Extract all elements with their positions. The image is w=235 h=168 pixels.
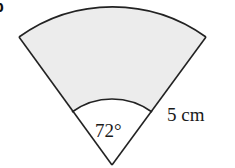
shaded-region	[19, 7, 206, 112]
width-label: 5 cm	[167, 104, 205, 125]
diagram-canvas: 72° 5 cm	[0, 0, 235, 168]
part-label: b	[0, 0, 4, 16]
angle-label: 72°	[95, 120, 122, 141]
annular-sector-diagram: b 72° 5 cm	[0, 0, 235, 168]
